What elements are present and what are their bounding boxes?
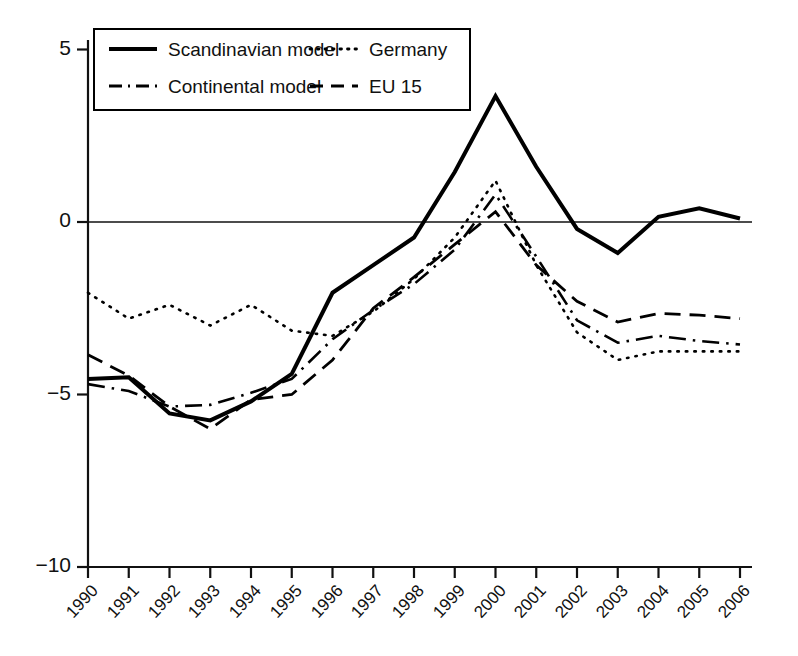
legend-line-sample-solid — [107, 41, 159, 57]
series-line-germany — [88, 181, 740, 360]
series-line-continental-model — [88, 194, 740, 406]
y-axis-tick-label: −10 — [0, 553, 71, 577]
series-line-eu-15 — [88, 212, 740, 429]
legend-label: Continental model — [168, 77, 321, 96]
chart-legend: Scandinavian modelGermanyContinental mod… — [93, 28, 471, 111]
y-axis-tick-label: 5 — [0, 36, 71, 60]
legend-label: EU 15 — [369, 77, 422, 96]
legend-line-sample-dotted — [308, 41, 360, 57]
chart-figure: 50−5−10 19901991199219931994199519961997… — [0, 0, 798, 656]
y-axis-tick-label: 0 — [0, 208, 71, 232]
y-axis-tick-label: −5 — [0, 381, 71, 405]
legend-item: Scandinavian model — [107, 34, 339, 64]
legend-item: EU 15 — [308, 71, 422, 101]
legend-item: Continental model — [107, 71, 321, 101]
legend-line-sample-dashdot — [107, 78, 159, 94]
series-line-scandinavian-model — [88, 96, 740, 420]
legend-label: Germany — [369, 40, 447, 59]
legend-line-sample-dashed — [308, 78, 360, 94]
legend-item: Germany — [308, 34, 447, 64]
